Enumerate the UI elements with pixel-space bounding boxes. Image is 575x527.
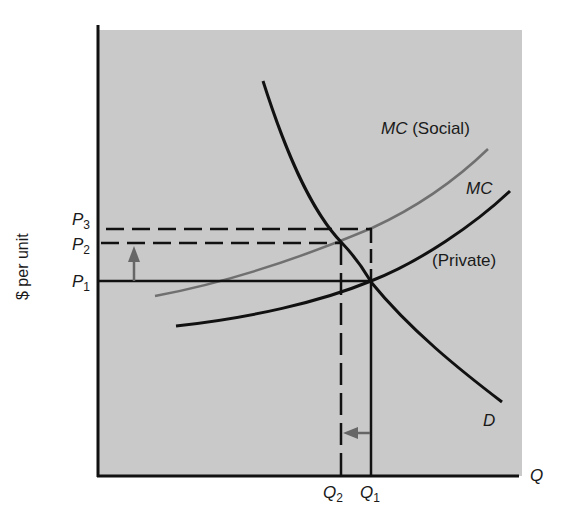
p1-label: P1 <box>72 273 90 293</box>
y-axis-label: $ per unit <box>14 233 32 300</box>
demand-label: D <box>483 412 495 429</box>
x-axis-label: Q <box>530 467 543 484</box>
mc-private-mc-label: MC <box>466 180 492 197</box>
q1-label: Q1 <box>360 484 380 504</box>
p2-label: P2 <box>72 236 90 256</box>
mc-social-label: MC (Social) <box>381 120 470 137</box>
p3-label: P3 <box>72 211 90 231</box>
mc-private-label: (Private) <box>432 252 496 269</box>
q2-label: Q2 <box>323 484 343 504</box>
